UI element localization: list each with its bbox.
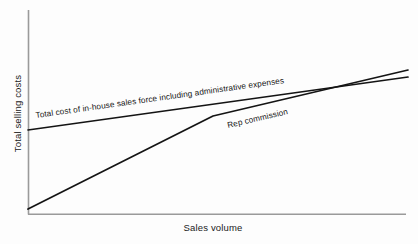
chart-plot-area: Total cost of in-house sales force inclu…: [0, 0, 418, 244]
chart-figure: Total cost of in-house sales force inclu…: [0, 0, 418, 244]
x-axis-title: Sales volume: [153, 222, 273, 233]
y-axis-title: Total selling costs: [12, 54, 23, 174]
series-label-inhouse-total-cost: Total cost of in-house sales force inclu…: [35, 76, 285, 120]
